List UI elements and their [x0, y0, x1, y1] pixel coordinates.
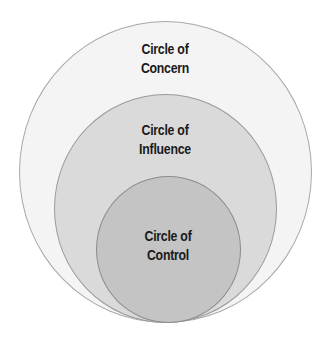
concern-label: Circle of Concern — [0, 39, 330, 77]
concern-label-line1: Circle of — [30, 39, 301, 58]
concern-label-line2: Concern — [30, 58, 301, 77]
influence-label-line2: Influence — [30, 139, 301, 158]
control-label-line2: Control — [33, 245, 304, 264]
influence-label: Circle of Influence — [0, 120, 330, 158]
control-label-line1: Circle of — [33, 226, 304, 245]
influence-label-line1: Circle of — [30, 120, 301, 139]
control-label: Circle of Control — [3, 226, 330, 264]
